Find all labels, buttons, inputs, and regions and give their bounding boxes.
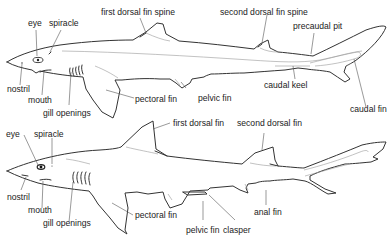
label-spiracle-top: spiracle bbox=[49, 18, 79, 28]
label-gill-openings-bottom: gill openings bbox=[43, 218, 91, 228]
label-clasper: clasper bbox=[223, 225, 251, 235]
label-gill-openings-top: gill openings bbox=[43, 108, 91, 118]
label-second-dorsal-fin-spine: second dorsal fin spine bbox=[220, 7, 308, 17]
top-shark: eye spiracle first dorsal fin spine seco… bbox=[7, 7, 387, 118]
label-pelvic-fin-top: pelvic fin bbox=[198, 93, 232, 103]
label-first-dorsal-fin-spine: first dorsal fin spine bbox=[101, 7, 175, 17]
top-shark-body-outline bbox=[7, 23, 386, 118]
label-anal-fin: anal fin bbox=[254, 207, 282, 217]
label-caudal-fin: caudal fin bbox=[350, 104, 387, 114]
label-nostril-top: nostril bbox=[7, 84, 30, 94]
shark-anatomy-diagram: eye spiracle first dorsal fin spine seco… bbox=[0, 0, 392, 237]
label-precaudal-pit: precaudal pit bbox=[293, 21, 343, 31]
label-mouth-top: mouth bbox=[28, 95, 52, 105]
label-eye-top: eye bbox=[28, 18, 42, 28]
top-shark-lateral-line bbox=[62, 51, 362, 62]
label-eye-bottom: eye bbox=[6, 129, 20, 139]
label-mouth-bottom: mouth bbox=[28, 205, 52, 215]
label-first-dorsal-fin: first dorsal fin bbox=[173, 118, 224, 128]
label-pectoral-fin-top: pectoral fin bbox=[135, 94, 177, 104]
label-caudal-keel: caudal keel bbox=[264, 80, 308, 90]
label-pelvic-fin-bottom: pelvic fin bbox=[186, 225, 220, 235]
label-pectoral-fin-bottom: pectoral fin bbox=[135, 210, 177, 220]
bottom-shark: eye spiracle first dorsal fin second dor… bbox=[6, 118, 386, 235]
label-nostril-bottom: nostril bbox=[7, 192, 30, 202]
label-spiracle-bottom: spiracle bbox=[34, 129, 64, 139]
label-second-dorsal-fin: second dorsal fin bbox=[237, 118, 302, 128]
